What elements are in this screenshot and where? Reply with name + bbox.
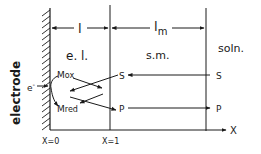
product-inner-label: P [119,104,125,114]
s-to-mox-arrow [70,75,118,91]
electrolyte-layer-label: e. l. [66,49,88,63]
electron-label: e- [27,81,36,93]
electrode-label: electrode [9,61,23,125]
mred-regeneration-arrow [80,94,103,103]
electrode-membrane-diagram: electrode X X=0 X=1 l lm e. l. s.m. soln… [0,0,261,154]
mred-label: Mred [57,104,78,114]
product-outer-label: P [216,104,222,114]
mox-to-mred-arrow [73,78,102,88]
tick-x1: X=1 [102,137,119,146]
solution-label: soln. [218,42,244,55]
layer-thickness-label: l [78,21,82,36]
mox-label: Mox [57,70,74,80]
substrate-outer-label: S [216,71,222,81]
tick-x0: X=0 [42,137,59,146]
x-axis-label: X [230,125,237,136]
redox-curve [51,76,58,106]
membrane-label: s.m. [146,49,169,62]
electrode-wall [42,8,50,130]
membrane-thickness-label: lm [154,19,167,37]
substrate-inner-label: S [119,71,125,81]
